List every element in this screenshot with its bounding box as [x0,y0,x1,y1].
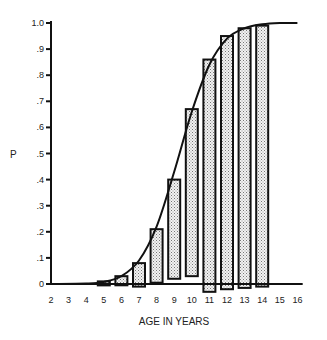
y-tick-label: .4 [36,175,44,185]
x-tick-label: 2 [48,295,53,305]
y-tick-label: .2 [36,227,44,237]
bars-layer [98,26,268,292]
y-tick-label: 0 [39,279,44,289]
y-tick-label: .1 [36,253,44,263]
x-tick-label: 13 [240,295,250,305]
x-tick-label: 16 [292,295,302,305]
x-tick-label: 5 [101,295,106,305]
x-tick-label: 3 [66,295,71,305]
x-tick-label: 11 [205,295,214,305]
sigmoid-bar-chart: 0.1.2.3.4.5.6.7.8.91.0 23456789101112131… [0,0,327,340]
y-tick-label: .8 [36,70,44,80]
x-tick-label: 9 [172,295,177,305]
y-tick-label: .9 [36,44,44,54]
y-axis-ticks: 0.1.2.3.4.5.6.7.8.91.0 [31,18,51,289]
x-tick-label: 4 [84,295,89,305]
x-tick-label: 15 [275,295,285,305]
y-tick-label: .7 [36,96,44,106]
x-tick-label: 12 [222,295,232,305]
x-tick-label: 10 [187,295,197,305]
x-tick-label: 7 [136,295,141,305]
y-tick-label: 1.0 [31,18,44,28]
y-tick-label: .6 [36,122,44,132]
bar-age-13 [239,28,251,288]
x-tick-label: 8 [154,295,159,305]
x-axis-title: AGE IN YEARS [139,316,210,327]
y-axis-title: P [10,149,17,160]
y-tick-label: .5 [36,149,44,159]
y-tick-label: .3 [36,201,44,211]
bar-age-9 [168,180,180,279]
bar-age-10 [186,109,198,276]
bar-age-14 [256,26,268,287]
x-tick-label: 6 [119,295,124,305]
bar-age-11 [203,60,215,292]
x-axis-ticks: 2345678910111213141516 [48,295,302,305]
x-tick-label: 14 [257,295,267,305]
bar-age-12 [221,36,233,289]
